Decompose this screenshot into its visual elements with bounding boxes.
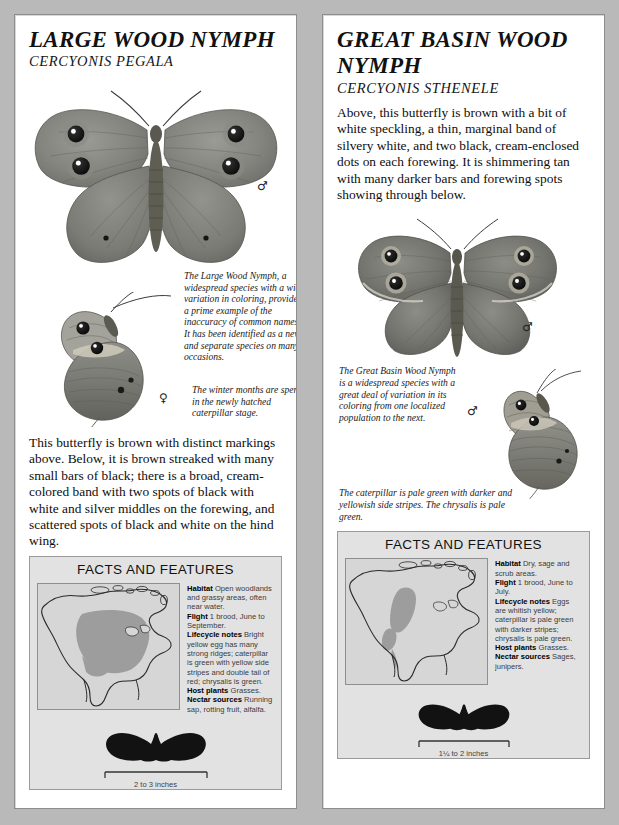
butterfly-illustration-dorsal-left: ♂ [29,78,282,278]
scale-label-right: 1¼ to 2 inches [338,749,589,758]
butterfly-illustration-dorsal-right: ♂ [337,209,590,361]
description-left: This butterfly is brown with distinct ma… [29,435,282,550]
species-panel-large-wood-nymph: LARGE WOOD NYMPH CERCYONIS PEGALA [14,14,297,809]
scientific-name-right: CERCYONIS STHENELE [337,80,590,97]
facts-list-right: Habitat Dry, sage and scrub areas. Fligh… [495,558,582,685]
fact-label-nectar-right: Nectar sources [495,652,550,661]
fact-label-hostplants-left: Host plants [187,686,228,695]
sex-symbol-male-right-ventral: ♂ [467,405,478,417]
scale-label-left: 2 to 3 inches [30,780,281,789]
fact-label-lifecycle-right: Lifecycle notes [495,597,550,606]
scale-bar-right [416,739,512,748]
butterfly-dorsal-svg [29,78,284,274]
page-title-right: GREAT BASIN WOOD NYMPH [337,27,590,79]
fact-value-lifecycle-left: Bright yellow egg has many strong ridges… [187,630,269,685]
range-map-right [345,558,488,685]
butterfly-ventral-svg-right [489,369,599,499]
description-right: Above, this butterfly is brown with a bi… [337,105,590,203]
caption-right-2: The caterpillar is pale green with darke… [339,487,519,522]
fact-label-habitat-left: Habitat [187,584,213,593]
fact-label-flight-left: Flight [187,612,208,621]
facts-and-features-right: FACTS AND FEATURES [337,531,590,759]
caption-left-1: The Large Wood Nymph, a widespread speci… [184,270,297,363]
facts-list-left: Habitat Open woodlands and grassy areas,… [187,583,274,714]
fact-value-hostplants-right: Grasses. [538,643,568,652]
fact-label-lifecycle-left: Lifecycle notes [187,630,242,639]
fact-label-hostplants-right: Host plants [495,643,536,652]
scientific-name-left: CERCYONIS PEGALA [29,53,282,70]
butterfly-silhouette-left [101,730,211,764]
fact-label-nectar-left: Nectar sources [187,695,242,704]
species-panel-great-basin-wood-nymph: GREAT BASIN WOOD NYMPH CERCYONIS STHENEL… [322,14,605,809]
page-title-left: LARGE WOOD NYMPH [29,27,282,52]
fact-value-hostplants-left: Grasses. [230,686,260,695]
field-guide-page: LARGE WOOD NYMPH CERCYONIS PEGALA [0,0,619,825]
north-america-map-svg-right [346,559,487,684]
north-america-map-svg-left [38,584,179,709]
butterfly-dorsal-svg-right [351,209,566,357]
fact-label-flight-right: Flight [495,578,516,587]
facts-heading-right: FACTS AND FEATURES [338,532,589,558]
size-scale-right: 1¼ to 2 inches [338,701,589,758]
sex-symbol-female-left-ventral: ♀ [159,392,168,404]
sex-symbol-male-right-dorsal: ♂ [522,321,533,333]
facts-heading-left: FACTS AND FEATURES [30,557,281,583]
butterfly-silhouette-right [414,701,514,733]
sex-symbol-male-left-dorsal: ♂ [257,180,268,192]
scale-bar-left [102,770,210,779]
butterfly-ventral-svg-left [39,292,179,427]
size-scale-left: 2 to 3 inches [30,730,281,789]
facts-and-features-left: FACTS AND FEATURES [29,556,282,790]
range-map-left [37,583,180,714]
caption-right-1: The Great Basin Wood Nymph is a widespre… [339,365,461,423]
caption-left-2: The winter months are spent in the newly… [192,384,297,419]
fact-label-habitat-right: Habitat [495,559,521,568]
